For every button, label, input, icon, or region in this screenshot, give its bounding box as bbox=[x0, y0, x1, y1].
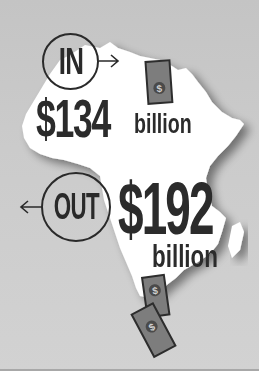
outflow-label-circle: OUT bbox=[41, 172, 111, 242]
dollar-banknote-icon: $ bbox=[143, 58, 177, 108]
outflow-label: OUT bbox=[53, 186, 98, 228]
inflow-label: IN bbox=[58, 41, 82, 83]
outflow-amount: $192 bbox=[118, 172, 213, 246]
arrow-right-icon bbox=[99, 53, 121, 69]
inflow-label-circle: IN bbox=[42, 33, 99, 90]
outflow-unit: billion bbox=[152, 240, 218, 272]
inflow-amount: $134 bbox=[36, 91, 110, 145]
inflow-unit: billion bbox=[134, 110, 192, 138]
dollar-banknote-icon: $ bbox=[124, 300, 184, 362]
arrow-left-icon bbox=[18, 199, 42, 215]
